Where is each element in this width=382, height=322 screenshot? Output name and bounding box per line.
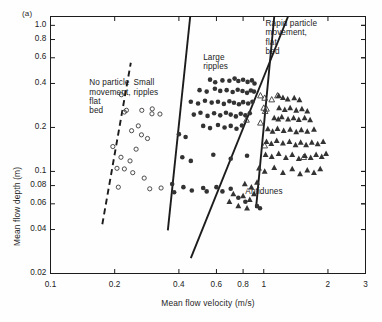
data-point [271,115,277,121]
data-point [291,115,297,121]
data-point [140,108,144,112]
y-tick-label: 0.2 [7,122,47,131]
data-point [285,96,291,102]
data-point [287,138,293,144]
data-point [276,105,282,111]
data-point [275,126,281,132]
y-tick-label: 0.8 [7,34,47,43]
data-point [180,155,185,160]
data-point [235,88,240,93]
data-point [307,117,313,123]
data-point [222,125,227,130]
data-point [201,124,206,129]
data-point [313,152,319,158]
data-point [228,112,233,117]
data-point [213,80,218,85]
data-point [234,126,239,131]
data-point [247,111,252,116]
data-point [281,128,287,134]
data-point [150,107,154,111]
data-point [214,185,219,190]
data-point [287,105,293,111]
data-point [203,98,208,103]
data-point [236,195,241,200]
data-point [230,90,235,95]
data-point [276,151,282,157]
data-point [246,101,251,106]
y-tick-label: 0.02 [7,268,47,277]
data-point [189,159,194,164]
data-point [116,185,120,189]
data-point [111,144,115,148]
data-point [285,116,291,122]
data-point [220,189,225,194]
data-point [311,169,317,175]
data-point [122,167,126,171]
data-point [299,106,305,112]
data-point [190,188,195,193]
data-point [208,126,213,131]
x-tick-label: 1 [249,280,279,289]
data-point [315,141,321,147]
data-point [245,80,250,85]
data-point [228,187,233,192]
data-point [280,140,286,146]
data-point [258,206,263,211]
data-point [264,138,270,144]
data-point [263,152,269,158]
data-point [245,153,250,158]
data-point [309,139,315,145]
data-point [258,120,264,125]
data-point [250,99,255,104]
boundary-small-to-large-ripples [168,17,190,231]
data-point [317,166,323,172]
data-point [323,151,329,157]
y-tick-label: 0.6 [7,52,47,61]
data-point [269,154,275,160]
y-tick-label: 0.4 [7,78,47,87]
data-point [271,165,277,171]
data-point [303,142,309,148]
data-point [228,157,233,162]
data-point [256,165,262,171]
data-point [304,167,310,173]
data-point [302,115,308,121]
x-tick-label: 2 [313,280,343,289]
data-point [244,205,250,211]
data-point [228,124,233,129]
data-point [235,203,241,209]
data-point [224,88,229,93]
y-tick-label: 0.06 [7,198,47,207]
data-point [136,124,140,128]
data-point [293,107,299,113]
y-tick-label: 1.0 [7,20,47,29]
data-point [237,102,242,107]
data-point [212,111,217,116]
data-point [201,186,206,191]
data-point [224,110,229,115]
data-point [311,126,317,132]
data-point [293,129,299,135]
regime-boundary-lines [102,17,288,259]
data-point [158,112,162,116]
data-point [308,155,314,161]
data-point [227,99,232,104]
y-tick-label: 0.08 [7,180,47,189]
data-point [134,147,138,151]
data-point [181,185,186,190]
data-point [208,77,213,82]
x-tick-label: 0.6 [201,280,231,289]
data-point [265,126,271,132]
data-point [119,155,123,159]
data-point [230,191,236,197]
data-point [280,169,286,175]
data-point [319,154,325,160]
data-point [218,113,223,118]
data-point [320,138,326,144]
data-point [227,78,232,83]
data-point [298,127,304,133]
data-point [145,136,149,140]
data-point [252,89,257,94]
data-point [131,171,135,175]
data-point [304,108,310,114]
